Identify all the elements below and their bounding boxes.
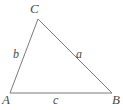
vertex-label-c: C <box>30 2 39 15</box>
side-label-b: b <box>13 48 19 60</box>
vertex-label-b: B <box>112 93 120 106</box>
side-label-a: a <box>76 48 82 60</box>
triangle-outline <box>10 19 112 93</box>
vertex-label-a: A <box>2 93 10 106</box>
triangle-figure: C A B a b c <box>0 0 123 110</box>
side-label-c: c <box>53 94 58 106</box>
